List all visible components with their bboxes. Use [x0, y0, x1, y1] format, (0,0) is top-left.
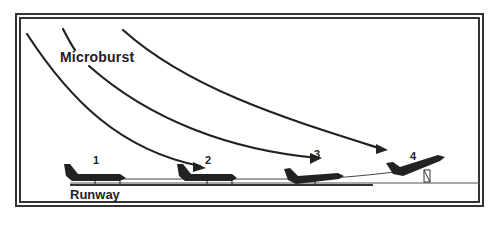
wind-curve-3 [123, 30, 382, 149]
airplane-3-icon [284, 168, 344, 184]
wind-curve-2 [63, 29, 75, 50]
position-label-4: 4 [410, 150, 416, 162]
position-label-3: 3 [314, 148, 320, 160]
diagram-title: Microburst [60, 49, 134, 65]
wind-curve-2b [89, 66, 318, 158]
position-label-2: 2 [205, 154, 211, 166]
runway-label: Runway [70, 187, 120, 202]
flight-path [120, 172, 395, 179]
position-label-1: 1 [93, 154, 99, 166]
airplane-2-icon [177, 164, 237, 184]
arrowhead-4 [376, 144, 388, 154]
airplane-1-icon [64, 164, 126, 184]
